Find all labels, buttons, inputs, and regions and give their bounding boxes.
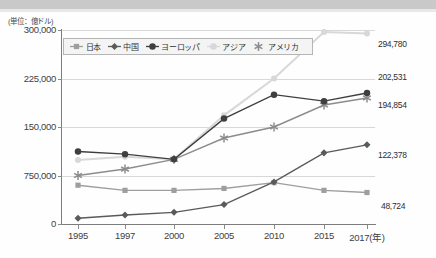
square-marker [70, 42, 83, 51]
diamond-marker [108, 42, 121, 51]
square-marker [171, 188, 176, 193]
x-axis-tick [174, 225, 175, 229]
x-axis-tick-label: 2005 [198, 230, 250, 241]
diamond-marker [363, 141, 370, 148]
circle-marker [75, 157, 81, 163]
circle-marker [271, 91, 278, 98]
legend-item-label: 日本 [86, 41, 101, 52]
x-axis-tick-label: 1997 [99, 230, 151, 241]
x-axis-tick [367, 225, 368, 229]
x-axis-tick-label: 2017(年) [341, 230, 393, 244]
x-axis-tick-label: 1995 [52, 230, 104, 241]
legend-item-中国: 中国 [108, 41, 139, 52]
y-axis-tick-label: 300,000 [0, 24, 56, 35]
chart-screenshot: (単位：億ドル) 300,000225,000150,000750,0000 1… [0, 0, 436, 258]
end-value-label: 122,378 [378, 150, 407, 160]
end-value-label: 194,854 [378, 100, 407, 110]
circle-marker [321, 29, 327, 35]
end-value-label: 202,531 [378, 72, 407, 82]
legend-item-アメリカ: アメリカ [252, 41, 298, 52]
x-axis-tick-label: 2000 [148, 230, 200, 241]
circle-marker [210, 43, 217, 50]
circle-marker [149, 43, 156, 50]
diamond-marker [121, 211, 128, 218]
plot-area [62, 30, 375, 224]
asterisk-marker [252, 42, 265, 51]
diamond-marker [220, 201, 227, 208]
circle-marker [271, 76, 277, 82]
diamond-marker [320, 149, 327, 156]
y-axis-tick-label: 0 [0, 218, 56, 229]
legend-item-日本: 日本 [70, 41, 101, 52]
circle-marker [122, 151, 129, 158]
legend-item-アジア: アジア [207, 41, 246, 52]
circle-marker [221, 115, 228, 122]
chart-legend: 日本中国ヨーロッパアジアアメリカ [63, 38, 313, 55]
square-marker [122, 188, 127, 193]
circle-marker [171, 156, 178, 163]
x-axis-tick [78, 225, 79, 229]
square-marker [364, 190, 369, 195]
circle-marker [364, 30, 370, 36]
square-marker [221, 186, 226, 191]
circle-marker [364, 90, 371, 97]
y-axis-tick-label: 750,000 [0, 170, 56, 181]
x-axis-line [61, 224, 376, 225]
series-layer [62, 30, 375, 224]
circle-marker [75, 148, 82, 155]
y-axis-tick-label: 150,000 [0, 121, 56, 132]
x-axis-tick [274, 225, 275, 229]
circle-marker [321, 98, 328, 105]
circle-marker [146, 42, 159, 51]
x-axis-tick [125, 225, 126, 229]
square-marker [321, 188, 326, 193]
diamond-marker [74, 215, 81, 222]
square-marker [75, 183, 80, 188]
x-axis-tick-label: 2010 [248, 230, 300, 241]
series-日本 [75, 180, 369, 195]
y-axis-tick-label: 225,000 [0, 73, 56, 84]
asterisk-marker [255, 42, 263, 51]
legend-item-label: アメリカ [268, 41, 299, 52]
x-axis-tick [224, 225, 225, 229]
legend-item-label: ヨーロッパ [161, 41, 200, 52]
legend-item-ヨーロッパ: ヨーロッパ [146, 41, 200, 52]
series-アメリカ [74, 94, 371, 180]
page-top-band [0, 0, 436, 9]
end-value-label: 294,780 [378, 39, 407, 49]
diamond-marker [170, 209, 177, 216]
legend-item-label: 中国 [123, 41, 138, 52]
square-marker [74, 44, 79, 49]
legend-item-label: アジア [222, 41, 245, 52]
x-axis-tick [324, 225, 325, 229]
end-value-label: 48,724 [381, 201, 405, 211]
diamond-marker [111, 43, 118, 50]
y-axis-tick [58, 224, 62, 225]
circle-light-marker [207, 42, 220, 51]
page-top-band-shadow [0, 9, 436, 12]
